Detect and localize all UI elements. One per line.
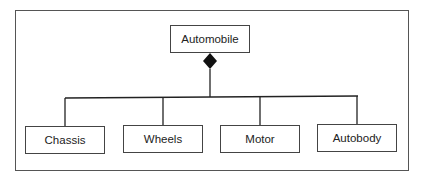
node-label: Automobile [181,33,239,45]
node-label: Autobody [333,132,382,144]
node-chassis: Chassis [25,126,105,154]
node-automobile: Automobile [170,25,250,53]
composition-diamond-icon [203,53,217,69]
node-autobody: Autobody [317,124,397,152]
node-label: Wheels [144,133,182,145]
node-label: Motor [245,133,274,145]
node-label: Chassis [45,134,86,146]
node-motor: Motor [220,125,300,153]
node-wheels: Wheels [123,125,203,153]
